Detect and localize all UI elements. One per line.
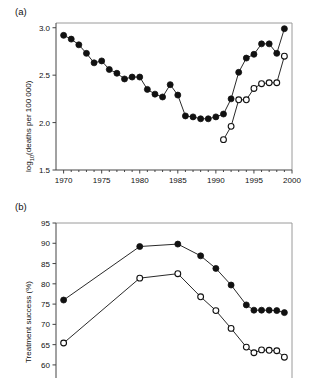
panel-b-datapoint	[175, 271, 181, 277]
panel-a-datapoint	[137, 74, 143, 80]
panel-b: (b) Treatment success (%) 60657075808590…	[0, 195, 314, 378]
panel-a-plot: 1.52.02.53.01970197519801985199019952000	[0, 0, 314, 195]
panel-a-datapoint	[251, 51, 257, 57]
panel-b-datapoint	[228, 326, 234, 332]
panel-a-ytick-label: 1.5	[39, 166, 51, 175]
panel-a-datapoint	[228, 123, 234, 129]
panel-a-datapoint	[122, 76, 128, 82]
panel-a-series-line-filled-circles	[64, 29, 285, 119]
panel-a-datapoint	[114, 70, 120, 76]
panel-a-datapoint	[266, 80, 272, 86]
panel-a-xtick-label: 1970	[55, 176, 73, 185]
panel-a-datapoint	[144, 86, 150, 92]
panel-b-series-line-open-circles	[64, 274, 285, 358]
panel-a-datapoint	[221, 137, 227, 143]
panel-b-datapoint	[281, 354, 287, 360]
panel-a-datapoint	[160, 94, 166, 100]
panel-a-ytick-label: 3.0	[39, 24, 51, 33]
panel-b-ytick-label: 65	[41, 341, 50, 350]
panel-b-datapoint	[243, 302, 249, 308]
panel-a-datapoint	[274, 50, 280, 56]
panel-b-datapoint	[198, 253, 204, 259]
panel-b-datapoint	[274, 308, 280, 314]
panel-a-datapoint	[243, 55, 249, 61]
panel-b-datapoint	[61, 340, 67, 346]
panel-b-ytick-label: 80	[41, 280, 50, 289]
panel-a-xtick-label: 1990	[207, 176, 225, 185]
panel-a-datapoint	[175, 92, 181, 98]
panel-a-ytick-label: 2.0	[39, 119, 51, 128]
panel-b-ytick-label: 60	[41, 361, 50, 370]
panel-a-datapoint	[281, 53, 287, 59]
panel-a-datapoint	[106, 66, 112, 72]
panel-a-xtick-label: 1980	[131, 176, 149, 185]
panel-a-datapoint	[259, 41, 265, 47]
panel-a-datapoint	[83, 50, 89, 56]
panel-a-datapoint	[220, 111, 226, 117]
panel-b-datapoint	[259, 347, 265, 353]
panel-a-datapoint	[76, 42, 82, 48]
panel-a-datapoint	[68, 36, 74, 42]
panel-b-ytick-label: 75	[41, 300, 50, 309]
figure-container: (a) log10(deaths per 100 000) 1.52.02.53…	[0, 0, 314, 378]
panel-b-ytick-label: 70	[41, 320, 50, 329]
panel-b-datapoint	[213, 265, 219, 271]
panel-a-ytick-label: 2.5	[39, 71, 51, 80]
panel-a: (a) log10(deaths per 100 000) 1.52.02.53…	[0, 0, 314, 195]
panel-a-datapoint	[61, 32, 67, 38]
panel-b-plot: 6065707580859095	[0, 195, 314, 378]
panel-b-datapoint	[266, 347, 272, 353]
panel-a-datapoint	[243, 97, 249, 103]
panel-a-datapoint	[152, 91, 158, 97]
panel-b-datapoint	[137, 244, 143, 250]
panel-b-datapoint	[251, 307, 257, 313]
panel-a-datapoint	[274, 80, 280, 86]
panel-b-datapoint	[213, 308, 219, 314]
panel-a-datapoint	[259, 81, 265, 87]
panel-a-datapoint	[182, 113, 188, 119]
panel-a-datapoint	[236, 69, 242, 75]
panel-a-datapoint	[91, 60, 97, 66]
panel-b-datapoint	[137, 275, 143, 281]
panel-a-xtick-label: 1975	[93, 176, 111, 185]
panel-b-ytick-label: 85	[41, 260, 50, 269]
panel-b-ytick-label: 90	[41, 239, 50, 248]
panel-a-datapoint	[167, 82, 173, 88]
panel-a-xtick-label: 1985	[169, 176, 187, 185]
panel-b-datapoint	[198, 294, 204, 300]
panel-b-ytick-label: 95	[41, 219, 50, 228]
panel-b-datapoint	[228, 282, 234, 288]
panel-a-datapoint	[228, 96, 234, 102]
panel-b-series-line-filled-circles	[64, 244, 285, 313]
panel-a-datapoint	[190, 114, 196, 120]
panel-b-datapoint	[175, 241, 181, 247]
panel-a-datapoint	[129, 74, 135, 80]
panel-a-xtick-label: 2000	[283, 176, 301, 185]
panel-a-datapoint	[266, 41, 272, 47]
panel-b-datapoint	[243, 344, 249, 350]
panel-b-datapoint	[259, 307, 265, 313]
panel-b-datapoint	[281, 310, 287, 316]
panel-b-datapoint	[274, 348, 280, 354]
panel-b-datapoint	[251, 350, 257, 356]
panel-a-datapoint	[205, 116, 211, 122]
panel-a-datapoint	[99, 58, 105, 64]
panel-b-datapoint	[266, 307, 272, 313]
panel-a-datapoint	[281, 26, 287, 32]
panel-a-xtick-label: 1995	[245, 176, 263, 185]
panel-a-datapoint	[213, 114, 219, 120]
panel-a-datapoint	[198, 116, 204, 122]
panel-b-datapoint	[61, 297, 67, 303]
panel-a-datapoint	[236, 97, 242, 103]
panel-a-datapoint	[251, 86, 257, 92]
